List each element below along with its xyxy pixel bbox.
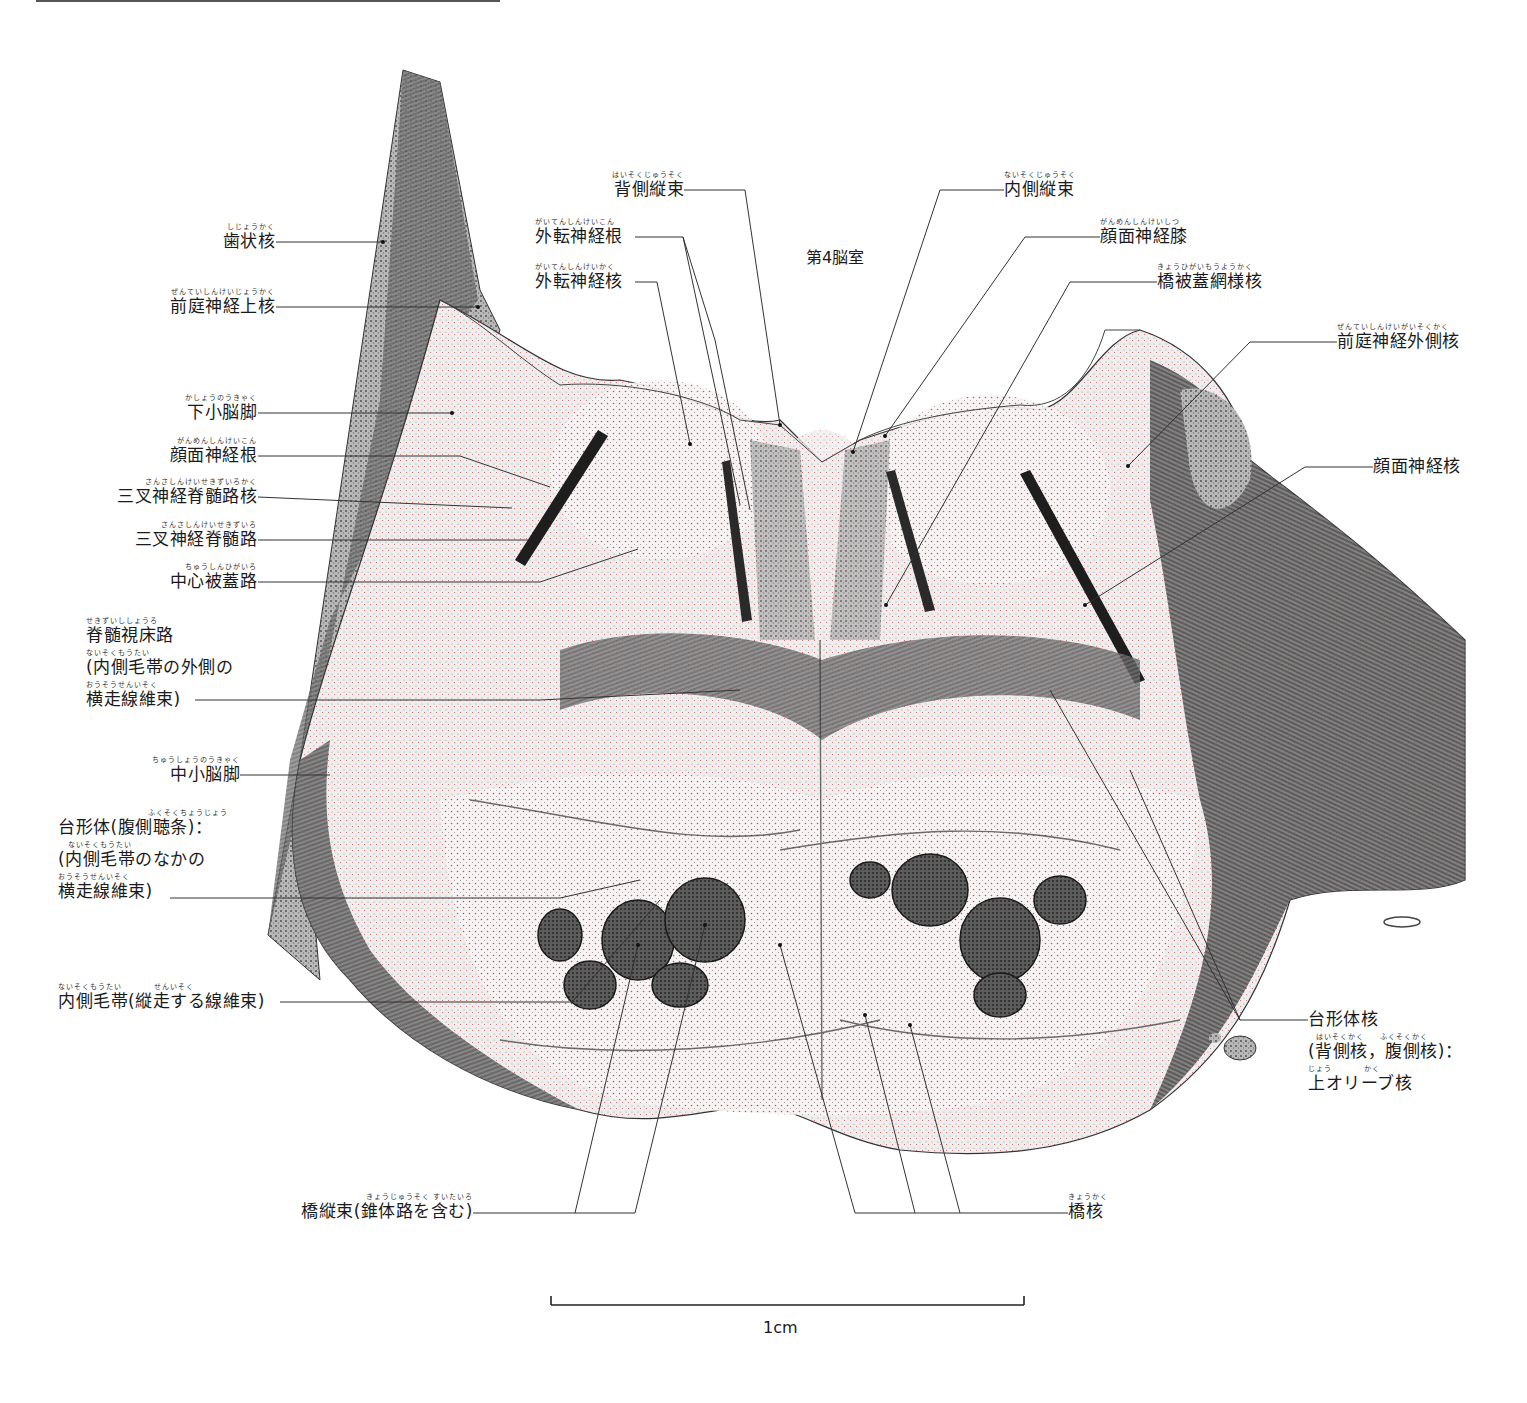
label-pontine-reticular-nucleus: きょうひがいもうようかく 橋被蓋網様核 — [1157, 264, 1262, 290]
label-pontine-longitudinal-fibers: きょうじゅうそく すいたいろ 橋縦束(錐体路を含む) — [301, 1194, 473, 1220]
label-central-tegmental-tract: ちゅうしんひがいろ 中心被蓋路 — [170, 564, 258, 590]
label-lateral-vestibular-nucleus: ぜんていしんけいがいそくかく 前庭神経外側核 — [1337, 324, 1460, 350]
label-abducens-nerve-root: がいてんしんけいこん 外転神経根 — [535, 219, 623, 245]
label-spinothalamic-tract: せきずいししょうろ 脊髄視床路 ないそくもうたい (内側毛帯の外側の おうそうせ… — [86, 618, 233, 708]
label-spinal-trigeminal-tract: さんさしんけいせきずいろ 三叉神経脊髄路 — [135, 522, 258, 548]
label-dentate-nucleus: しじょうかく 歯状核 — [223, 224, 276, 250]
fourth-ventricle-label: 第4脳室 — [806, 244, 864, 268]
label-trapezoid-body-nuclei: 台形体核 はいそくかく ふくそくかく (背側核，腹側核)： じょう かく 上オリ… — [1308, 1011, 1462, 1092]
label-abducens-nucleus: がいてんしんけいかく 外転神経核 — [535, 264, 623, 290]
label-pontine-nuclei: きょうかく 橋核 — [1068, 1194, 1108, 1220]
scale-bar-label: 1cm — [763, 1318, 798, 1337]
furigana: しじょうかく — [223, 224, 276, 231]
label-superior-vestibular-nucleus: ぜんていしんけいじょうかく 前庭神経上核 — [170, 289, 275, 315]
label-facial-nucleus: 顔面神経核 — [1373, 458, 1461, 475]
label-inferior-cerebellar-peduncle: かしょうのうきゃく 下小脳脚 — [185, 395, 257, 421]
label-facial-nerve-root: がんめんしんけいこん 顔面神経根 — [170, 438, 258, 464]
label-medial-longitudinal-fasciculus: ないそくじゅうそく 内側縦束 — [1004, 172, 1076, 198]
label-facial-nerve-genu: がんめんしんけいしつ 顔面神経膝 — [1100, 219, 1188, 245]
label-trapezoid-body: ふくそくちょうじょう 台形体(腹側聴条)： ないそくもうたい (内側毛帯のなかの… — [58, 810, 228, 900]
label-middle-cerebellar-peduncle: ちゅうしょうのうきゃく 中小脳脚 — [152, 757, 240, 783]
label-dorsal-longitudinal-fasciculus: はいそくじゅうそく 背側縦束 — [612, 172, 684, 198]
scale-bar — [551, 1296, 1024, 1305]
label-medial-lemniscus: ないそくもうたい せんいそく 内側毛帯(縦走する線維束) — [58, 984, 265, 1010]
label-spinal-trigeminal-nucleus: さんさしんけいせきずいろかく 三叉神経脊髄路核 — [117, 479, 257, 505]
